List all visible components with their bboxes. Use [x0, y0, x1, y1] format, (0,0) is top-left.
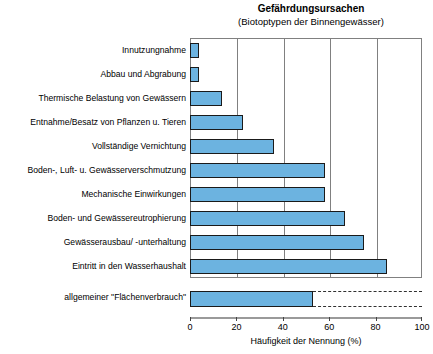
bar-row[interactable]	[190, 134, 422, 158]
x-axis-title: Häufigkeit der Nennung (%)	[190, 336, 422, 346]
x-tick-80	[376, 317, 377, 321]
x-tick-20	[236, 317, 237, 321]
x-tick-60	[329, 317, 330, 321]
y-axis-label: Thermische Belastung von Gewässern	[0, 93, 186, 103]
y-axis-label: Innutzungnahme	[0, 45, 186, 55]
x-tick-0	[190, 317, 191, 321]
bar-row[interactable]	[190, 62, 422, 86]
bar[interactable]	[190, 67, 199, 82]
x-tick-100	[421, 317, 422, 321]
y-axis-label: Boden- und Gewässereutrophierung	[0, 213, 186, 223]
x-tick-label: 20	[231, 322, 241, 332]
chart-figure: Gefährdungsursachen (Biotoptypen der Bin…	[0, 0, 433, 354]
dashed-extension-top	[313, 291, 422, 292]
x-tick-label: 40	[278, 322, 288, 332]
y-axis-label: Mechanische Einwirkungen	[0, 189, 186, 199]
chart-title-block: Gefährdungsursachen (Biotoptypen der Bin…	[190, 2, 432, 28]
bar[interactable]	[190, 139, 274, 154]
y-axis-label: Eintritt in den Wasserhaushalt	[0, 261, 186, 271]
bar-row[interactable]	[190, 158, 422, 182]
bar-row[interactable]	[190, 206, 422, 230]
bar-row[interactable]	[190, 182, 422, 206]
extra-category-bar[interactable]	[190, 291, 313, 307]
bar[interactable]	[190, 91, 222, 106]
chart-title: Gefährdungsursachen	[190, 2, 432, 15]
bar[interactable]	[190, 259, 387, 274]
extra-category-label: allgemeiner "Flächenverbrauch"	[0, 292, 186, 303]
bar[interactable]	[190, 235, 364, 250]
y-axis-label: Entnahme/Besatz von Pflanzen u. Tieren	[0, 117, 186, 127]
x-tick-40	[283, 317, 284, 321]
x-tick-label: 60	[324, 322, 334, 332]
bar-row[interactable]	[190, 86, 422, 110]
bar[interactable]	[190, 43, 199, 58]
bar-row[interactable]	[190, 254, 422, 278]
extra-category-bar-area	[190, 289, 422, 310]
bar[interactable]	[190, 187, 325, 202]
bar[interactable]	[190, 163, 325, 178]
y-axis-label: Vollständige Vernichtung	[0, 141, 186, 151]
bars-container	[190, 38, 422, 278]
dashed-extension-bottom	[313, 306, 422, 307]
chart-subtitle: (Biotoptypen der Binnengewässer)	[190, 15, 432, 28]
bar-row[interactable]	[190, 38, 422, 62]
bar-row[interactable]	[190, 230, 422, 254]
x-tick-label: 80	[371, 322, 381, 332]
bar[interactable]	[190, 115, 243, 130]
x-tick-label: 0	[187, 322, 192, 332]
y-axis-label: Abbau und Abgrabung	[0, 69, 186, 79]
x-tick-label: 100	[414, 322, 429, 332]
x-axis-line: 020406080100	[190, 317, 422, 319]
bar-row[interactable]	[190, 110, 422, 134]
bar[interactable]	[190, 211, 345, 226]
y-axis-label: Boden-, Luft- u. Gewässerverschmutzung	[0, 165, 186, 175]
y-axis-label: Gewässerausbau/ -unterhaltung	[0, 237, 186, 247]
